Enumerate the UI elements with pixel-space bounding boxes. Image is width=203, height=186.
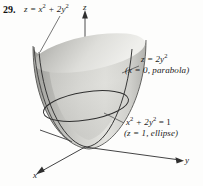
parabola-equation-exp: 2 bbox=[164, 52, 167, 59]
figure-container: 29. z = x2 + 2y2 z = 2y2 (x = 0, parabol… bbox=[0, 0, 203, 186]
problem-number: 29. bbox=[3, 4, 16, 15]
arrowhead-x-icon bbox=[36, 167, 45, 175]
surface-equation-exp2: 2 bbox=[66, 2, 69, 9]
ellipse-condition-line: (z = 1, ellipse) bbox=[124, 128, 178, 139]
ellipse-equation-b: + 2y bbox=[133, 117, 153, 127]
parabola-annotation: z = 2y2 (x = 0, parabola) bbox=[141, 54, 189, 76]
axis-x-line bbox=[40, 147, 85, 172]
surface-equation-base: z = x bbox=[24, 4, 43, 14]
axis-label-x: x bbox=[33, 170, 37, 180]
parabola-equation-base: z = 2y bbox=[141, 54, 164, 64]
surface-equation-label: z = x2 + 2y2 bbox=[24, 4, 69, 15]
ellipse-condition-text: (z = 1, ellipse) bbox=[124, 128, 178, 138]
axis-label-z: z bbox=[83, 2, 87, 12]
surface-equation-mid: + 2y bbox=[46, 4, 66, 14]
ellipse-annotation: x2 + 2y2 = 1 (z = 1, ellipse) bbox=[126, 117, 178, 139]
arrowhead-y-icon bbox=[175, 157, 184, 163]
parabola-condition-line: (x = 0, parabola) bbox=[125, 65, 189, 76]
parabola-equation-line: z = 2y2 bbox=[141, 54, 189, 65]
axes-front bbox=[40, 147, 180, 172]
ellipse-equation-c: = 1 bbox=[156, 117, 170, 127]
axis-y-line bbox=[85, 147, 180, 160]
paraboloid-diagram bbox=[0, 0, 203, 186]
ellipse-equation-line: x2 + 2y2 = 1 bbox=[126, 117, 178, 128]
parabola-condition-text: (x = 0, parabola) bbox=[125, 65, 189, 75]
axis-label-y: y bbox=[185, 155, 189, 165]
